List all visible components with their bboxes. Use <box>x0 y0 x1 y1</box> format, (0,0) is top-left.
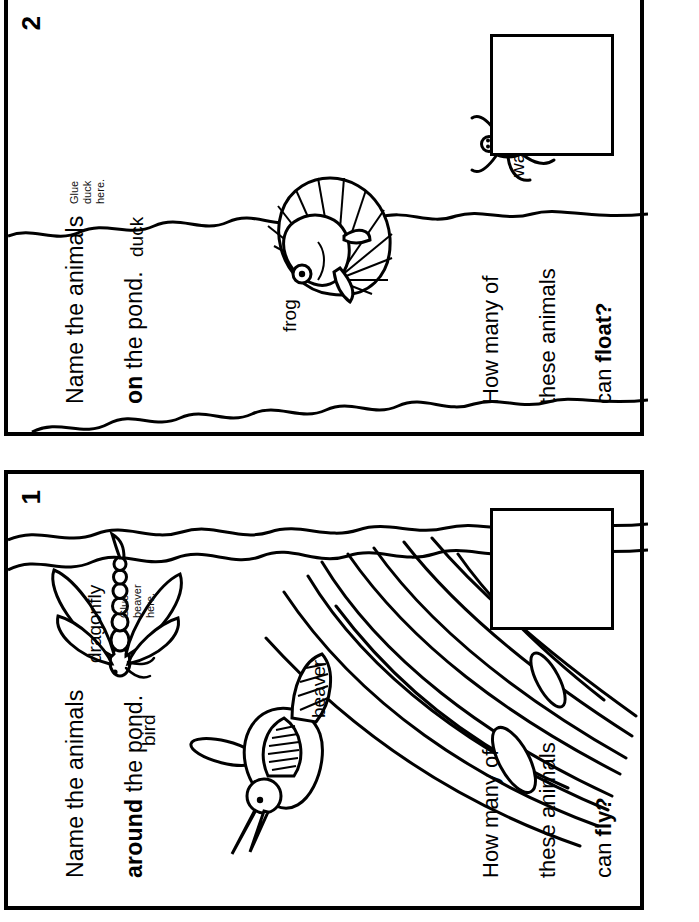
worksheet-page-2: 2 Name the animals on the pond. <box>4 0 644 436</box>
question-line-2: these animals <box>535 268 560 404</box>
animal-label-beaver: beaver <box>308 660 330 718</box>
page-question: How many of these animals can fly? <box>449 742 618 878</box>
animal-label-bird: bird <box>138 714 160 746</box>
waterline-path <box>32 399 648 432</box>
animal-label-dragonfly: dragonfly <box>84 585 106 663</box>
answer-box[interactable] <box>490 508 614 630</box>
question-line-1: How many of <box>478 750 503 878</box>
page-number: 2 <box>16 16 47 30</box>
glue-instruction: Glue duck here. <box>68 144 107 204</box>
page-title-line1: Name the animals <box>62 689 88 878</box>
page-title-rest: the pond. <box>121 695 147 799</box>
question-line-1: How many of <box>478 276 503 404</box>
answer-box[interactable] <box>490 34 614 156</box>
glue-instruction: Glue beaver here. <box>118 554 157 618</box>
page-title-bold-word: on <box>121 376 147 405</box>
page-title-bold-word: around <box>121 799 147 878</box>
animal-label-duck: duck <box>126 217 148 257</box>
question-bold-word: fly? <box>591 797 616 836</box>
page-question: How many of these animals can float? <box>449 268 618 404</box>
question-line-3-prefix: can <box>591 362 616 404</box>
question-line-3-prefix: can <box>591 836 616 878</box>
question-bold-word: float? <box>591 303 616 363</box>
worksheet-page-1: 1 Name the animals around the pond. <box>4 470 644 910</box>
question-line-2: these animals <box>535 742 560 878</box>
page-title-line1: Name the animals <box>62 215 88 404</box>
page-title: Name the animals around the pond. <box>32 689 150 878</box>
worksheet-sheet: 2 Name the animals on the pond. <box>0 0 699 922</box>
frog-on-lily-pad-art <box>268 178 392 302</box>
page-number: 1 <box>16 490 47 504</box>
page-title-rest: the pond. <box>121 271 147 375</box>
animal-label-frog: frog <box>279 299 301 332</box>
